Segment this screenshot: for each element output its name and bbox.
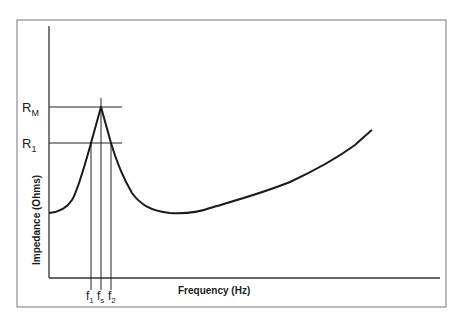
impedance-curve — [49, 107, 372, 213]
impedance-diagram: RM R1 f1 fs f2 Frequency (Hz) Impedance … — [0, 0, 463, 324]
x-axis-title: Frequency (Hz) — [178, 285, 250, 296]
y-axis-title: Impedance (Ohms) — [31, 175, 42, 265]
f1-label: f1 — [86, 289, 94, 305]
f2-label: f2 — [108, 289, 116, 305]
r1-label: R1 — [22, 136, 36, 154]
figure-frame — [17, 20, 446, 307]
fs-label: fs — [97, 289, 104, 305]
rm-label: RM — [22, 100, 39, 118]
